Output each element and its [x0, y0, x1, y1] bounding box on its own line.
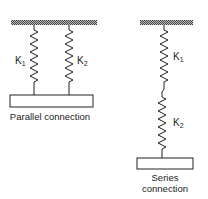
series-ceiling	[140, 20, 193, 25]
parallel-spring-k2	[65, 25, 73, 95]
parallel-k2-label: K2	[77, 55, 88, 67]
series-connection: K1 K2 Series connection	[137, 20, 193, 194]
parallel-mass-bar	[10, 95, 93, 107]
series-k2-label: K2	[173, 117, 184, 129]
series-k1-label: K1	[173, 51, 184, 63]
parallel-ceiling	[11, 20, 97, 25]
parallel-caption: Parallel connection	[10, 111, 90, 122]
series-spring-k2	[158, 97, 166, 158]
series-mass-bar	[137, 158, 193, 169]
parallel-spring-k1	[30, 25, 38, 95]
series-caption-line1: Series	[152, 172, 179, 183]
parallel-connection: K1 K2 Parallel connection	[10, 20, 97, 122]
series-caption-line2: connection	[142, 183, 188, 194]
spring-diagram: K1 K2 Parallel connection K1 K2 Series c…	[0, 0, 208, 199]
series-spring-k1	[160, 25, 168, 97]
parallel-k1-label: K1	[15, 55, 26, 67]
